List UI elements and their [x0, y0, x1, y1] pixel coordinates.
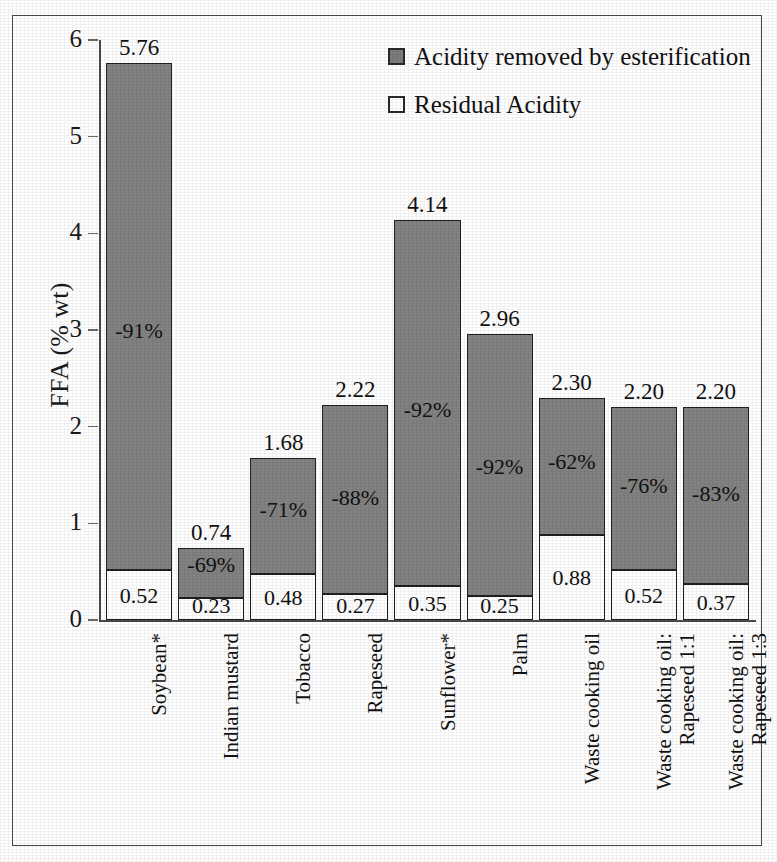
x-axis-category-label: Waste cooking oil: Rapeseed 1:1 — [653, 633, 699, 843]
bar-group[interactable]: 2.20-83%0.37 — [683, 407, 749, 620]
bar-total-label: 0.74 — [170, 521, 252, 544]
bar-group[interactable]: 2.20-76%0.52 — [611, 407, 677, 620]
bar-group[interactable]: 4.14-92%0.35 — [394, 220, 460, 620]
bar-reduction-label: -83% — [683, 483, 749, 505]
y-tick-mark — [88, 426, 98, 428]
y-tick-label: 2 — [52, 413, 82, 438]
x-axis-category-label: Sunflower* — [437, 633, 460, 843]
y-tick-mark — [88, 39, 98, 41]
y-tick-label: 4 — [52, 219, 82, 244]
x-axis-category-label: Tobacco — [292, 633, 315, 843]
bar-residual-label: 0.27 — [322, 595, 388, 617]
bar-total-label: 2.96 — [459, 307, 541, 330]
bar-total-label: 2.20 — [603, 380, 685, 403]
x-axis-category-label: Waste cooking oil: Rapeseed 1:3 — [725, 633, 771, 843]
bar-total-label: 4.14 — [386, 193, 468, 216]
bar-group[interactable]: 1.68-71%0.48 — [250, 458, 316, 620]
bar-segment-acidity-removed[interactable] — [106, 63, 172, 570]
legend-item-residual-acidity: Residual Acidity — [388, 92, 751, 117]
y-tick-label: 1 — [52, 509, 82, 534]
legend-label-residual-acidity: Residual Acidity — [414, 92, 581, 117]
bar-residual-label: 0.35 — [394, 593, 460, 615]
plot-area: FFA (% wt) 6543210 5.76-91%0.520.74-69%0… — [0, 0, 777, 862]
figure-container: FFA (% wt) 6543210 5.76-91%0.520.74-69%0… — [0, 0, 777, 862]
y-tick-mark — [88, 233, 98, 235]
bar-residual-label: 0.52 — [106, 585, 172, 607]
bar-group[interactable]: 5.76-91%0.52 — [106, 63, 172, 620]
bar-total-label: 2.22 — [314, 378, 396, 401]
y-tick-label: 3 — [52, 316, 82, 341]
bar-group[interactable]: 2.22-88%0.27 — [322, 405, 388, 620]
bar-group[interactable]: 0.74-69%0.23 — [178, 548, 244, 620]
x-axis-category-label: Indian mustard — [220, 633, 243, 843]
bar-reduction-label: -92% — [394, 399, 460, 421]
y-tick-mark — [88, 523, 98, 525]
legend-swatch-outlined-white-square-icon — [388, 96, 405, 113]
bar-group[interactable]: 2.96-92%0.25 — [467, 334, 533, 620]
bar-reduction-label: -91% — [106, 320, 172, 342]
y-tick-mark — [88, 329, 98, 331]
bar-total-label: 2.20 — [675, 380, 757, 403]
y-tick-mark — [88, 136, 98, 138]
legend-item-acidity-removed: Acidity removed by esterification — [388, 44, 751, 69]
bar-reduction-label: -92% — [467, 456, 533, 478]
x-axis-category-label: Rapeseed — [364, 633, 387, 843]
x-axis-line — [99, 620, 756, 622]
bar-residual-label: 0.52 — [611, 585, 677, 607]
y-tick-label: 5 — [52, 123, 82, 148]
y-axis-line — [99, 40, 101, 620]
y-tick-label: 0 — [52, 606, 82, 631]
bar-reduction-label: -76% — [611, 475, 677, 497]
bar-group[interactable]: 2.30-62%0.88 — [539, 398, 605, 620]
bar-reduction-label: -71% — [250, 499, 316, 521]
bar-residual-label: 0.48 — [250, 587, 316, 609]
x-axis-category-label: Soybean* — [148, 633, 171, 843]
bar-total-label: 1.68 — [242, 431, 324, 454]
x-axis-category-label: Palm — [509, 633, 532, 843]
legend-label-acidity-removed: Acidity removed by esterification — [414, 44, 751, 69]
y-tick-label: 6 — [52, 26, 82, 51]
chart-legend: Acidity removed by esterification Residu… — [388, 44, 751, 140]
bar-residual-label: 0.25 — [467, 595, 533, 617]
legend-swatch-filled-gray-square-icon — [388, 48, 405, 65]
y-tick-mark — [88, 619, 98, 621]
bar-reduction-label: -69% — [178, 554, 244, 576]
bar-residual-label: 0.37 — [683, 592, 749, 614]
bar-total-label: 2.30 — [531, 371, 613, 394]
bar-residual-label: 0.88 — [539, 567, 605, 589]
bar-residual-label: 0.23 — [178, 595, 244, 617]
bar-total-label: 5.76 — [98, 36, 180, 59]
bar-reduction-label: -88% — [322, 487, 388, 509]
bar-reduction-label: -62% — [539, 451, 605, 473]
x-axis-category-label: Waste cooking oil — [581, 633, 604, 843]
